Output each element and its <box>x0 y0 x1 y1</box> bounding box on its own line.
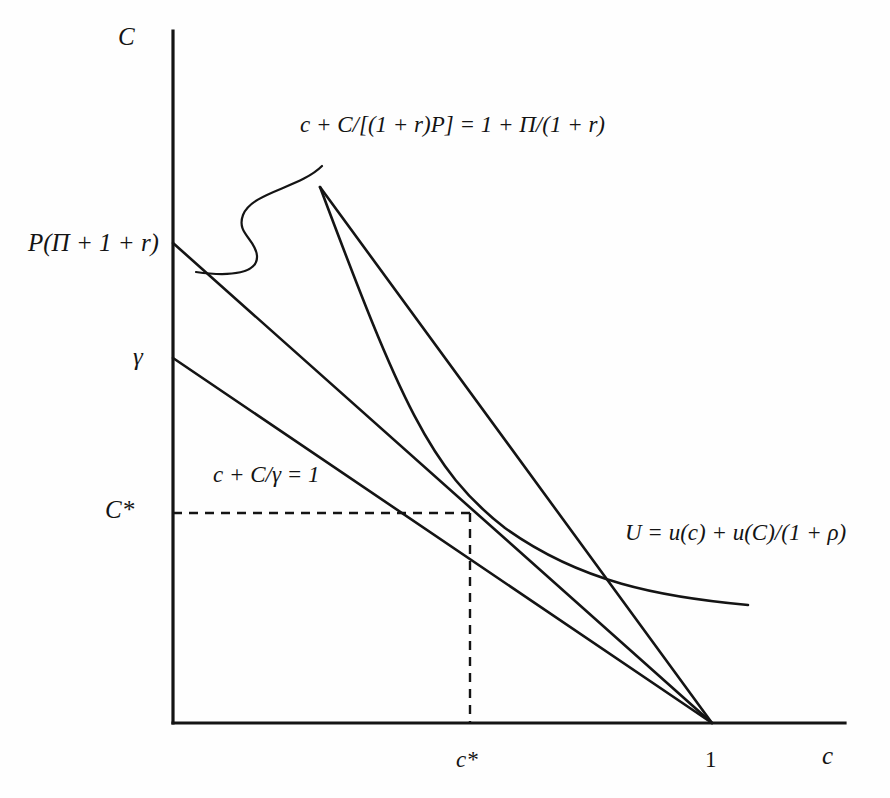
pointer-squiggle <box>196 166 322 274</box>
figure-container: C c P(Π + 1 + r) γ C* c* 1 c + C/[(1 + r… <box>0 0 890 798</box>
unit-endowment-tick-label: 1 <box>705 748 717 771</box>
optimal-C-label: C* <box>105 497 134 522</box>
steep-budget-equation-label: c + C/[(1 + r)P] = 1 + Π/(1 + r) <box>300 113 605 136</box>
x-axis-label: c <box>822 743 833 768</box>
steep-budget-line <box>320 187 712 723</box>
utility-equation-label: U = u(c) + u(C)/(1 + ρ) <box>625 521 846 544</box>
inner-budget-intercept-label: γ <box>133 344 143 369</box>
outer-budget-intercept-label: P(Π + 1 + r) <box>28 230 159 255</box>
optimal-c-tick-label: c* <box>456 748 478 771</box>
y-axis-label: C <box>118 24 135 49</box>
flat-budget-equation-label: c + C/γ = 1 <box>213 463 320 486</box>
